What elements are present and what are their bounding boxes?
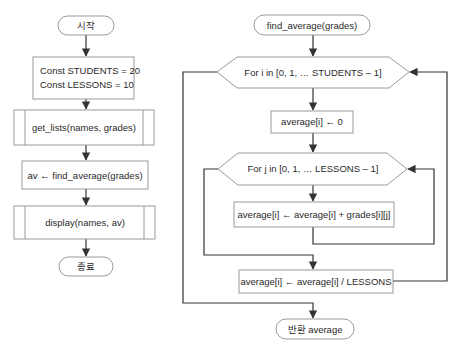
outer-loop-back-edge [393, 72, 447, 281]
display-label: display(names, av) [45, 217, 125, 228]
main-flowchart: 시작 Const STUDENTS = 20 Const LESSONS = 1… [14, 16, 155, 276]
const-students-label: Const STUDENTS = 20 [40, 65, 140, 76]
return-terminator: 반환 average [276, 319, 354, 339]
inner-loop-label: For j in [0, 1, … LESSONS – 1] [248, 163, 379, 174]
start-terminator: 시작 [58, 16, 114, 35]
init-average-label: average[i] ← 0 [281, 116, 343, 127]
accumulate-process-box: average[i] ← average[i] + grades[i][j] [234, 202, 394, 227]
const-lessons-label: Const LESSONS = 10 [40, 79, 134, 90]
assign-av-label: av ← find_average(grades) [27, 170, 142, 181]
start-label: 시작 [77, 20, 95, 31]
function-header-label: find_average(grades) [267, 20, 357, 31]
function-header-terminator: find_average(grades) [254, 15, 370, 35]
divide-process-box: average[i] ← average[i] / LESSONS [239, 270, 393, 293]
init-average-process-box: average[i] ← 0 [271, 111, 353, 133]
assign-av-process-box: av ← find_average(grades) [22, 161, 148, 189]
accumulate-label: average[i] ← average[i] + grades[i][j] [238, 209, 391, 220]
get-lists-subroutine-box: get_lists(names, grades) [14, 110, 154, 145]
get-lists-label: get_lists(names, grades) [32, 122, 136, 133]
inner-loop-hexagon: For j in [0, 1, … LESSONS – 1] [218, 153, 407, 185]
end-label: 종료 [77, 261, 95, 272]
return-label: 반환 average [288, 324, 343, 335]
divide-label: average[i] ← average[i] / LESSONS [240, 276, 391, 287]
function-flowchart: find_average(grades) For i in [0, 1, … S… [183, 15, 447, 339]
display-subroutine-box: display(names, av) [14, 206, 155, 239]
outer-loop-label: For i in [0, 1, … STUDENTS – 1] [244, 67, 381, 78]
flowchart-canvas: 시작 Const STUDENTS = 20 Const LESSONS = 1… [0, 0, 457, 352]
end-terminator: 종료 [59, 257, 113, 276]
outer-loop-hexagon: For i in [0, 1, … STUDENTS – 1] [217, 57, 409, 88]
constants-process-box: Const STUDENTS = 20 Const LESSONS = 10 [33, 57, 140, 99]
